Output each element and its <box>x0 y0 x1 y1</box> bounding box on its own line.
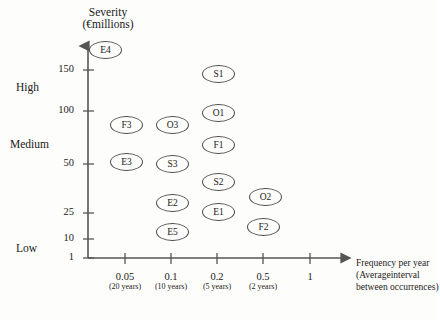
y-tick-label-150: 150 <box>40 63 74 74</box>
y-tick-label-1: 1 <box>40 251 74 262</box>
data-point-s2[interactable]: S2 <box>202 173 235 191</box>
data-point-s1[interactable]: S1 <box>202 65 235 83</box>
data-point-e4[interactable]: E4 <box>89 41 122 59</box>
y-axis-title-line1: Severity <box>52 6 164 18</box>
y-tick-label-100: 100 <box>40 104 74 115</box>
data-point-o2[interactable]: O2 <box>249 188 282 206</box>
x-tick-sublabel-0-5: (2 years) <box>231 283 295 291</box>
data-point-f1[interactable]: F1 <box>202 136 235 154</box>
severity-category-medium: Medium <box>10 138 49 150</box>
data-point-o3[interactable]: O3 <box>156 116 189 134</box>
y-axis-title-line2: (€millions) <box>52 18 164 30</box>
x-axis-title-line3: between occurrences) <box>356 282 440 294</box>
x-axis-title: Frequency per year (Averageinterval betw… <box>356 258 440 294</box>
data-point-f2[interactable]: F2 <box>247 218 280 236</box>
data-point-e2[interactable]: E2 <box>156 194 189 212</box>
severity-category-high: High <box>16 81 39 93</box>
x-tick-label-1: 1 <box>278 271 342 283</box>
y-axis-title: Severity (€millions) <box>52 6 164 30</box>
x-axis-title-line1: Frequency per year <box>356 258 440 270</box>
x-axis-title-line2: (Averageinterval <box>356 270 440 282</box>
data-point-e1[interactable]: E1 <box>202 203 235 221</box>
data-point-f3[interactable]: F3 <box>110 116 143 134</box>
data-point-s3[interactable]: S3 <box>156 155 189 173</box>
severity-category-low: Low <box>16 242 37 254</box>
data-point-e5[interactable]: E5 <box>156 223 189 241</box>
x-tick-value-1: 1 <box>278 271 342 282</box>
y-tick-label-10: 10 <box>40 232 74 243</box>
y-tick-label-50: 50 <box>40 157 74 168</box>
data-point-e3[interactable]: E3 <box>110 153 143 171</box>
data-point-o1[interactable]: O1 <box>202 104 235 122</box>
y-tick-label-25: 25 <box>40 206 74 217</box>
